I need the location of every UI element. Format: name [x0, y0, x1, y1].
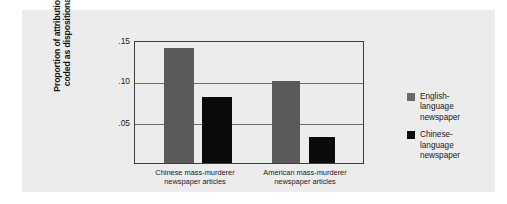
x-axis-label-american-articles-line-1: American mass-murderer: [250, 168, 360, 177]
legend: English- language newspaper Chinese- lan…: [407, 92, 460, 168]
y-tick-label-015: .15: [104, 37, 130, 46]
x-axis-label-chinese-articles-line-2: newspaper articles: [140, 177, 250, 186]
plot-area: [134, 41, 364, 164]
y-tick-label-010: .10: [104, 77, 130, 86]
x-axis-label-chinese-articles: Chinese mass-murderer newspaper articles: [140, 168, 250, 187]
legend-label-english-language-newspaper: English- language newspaper: [420, 92, 460, 123]
x-axis-label-american-articles: American mass-murderer newspaper article…: [250, 168, 360, 187]
y-axis-title-line-1: Proportion of attributions: [52, 0, 63, 92]
figure-panel: Proportion of attributions coded as disp…: [22, 10, 495, 192]
bar-american-articles-english-newspaper: [272, 81, 300, 163]
y-axis-title-line-2: coded as dispositional: [62, 0, 73, 86]
legend-swatch-icon-english: [407, 93, 415, 101]
legend-swatch-icon-chinese: [407, 131, 415, 139]
x-axis-label-american-articles-line-2: newspaper articles: [250, 177, 360, 186]
legend-item-english-language-newspaper: English- language newspaper: [407, 92, 460, 123]
y-axis-title: Proportion of attributions coded as disp…: [45, 0, 79, 105]
y-tick-label-005: .05: [104, 119, 130, 128]
bar-chinese-articles-english-newspaper: [164, 48, 194, 163]
legend-label-chinese-language-newspaper: Chinese- language newspaper: [420, 130, 460, 161]
x-axis-label-chinese-articles-line-1: Chinese mass-murderer: [140, 168, 250, 177]
y-axis-tick-labels: .15 .10 .05: [102, 41, 130, 164]
bar-chinese-articles-chinese-newspaper: [202, 97, 232, 163]
legend-item-chinese-language-newspaper: Chinese- language newspaper: [407, 130, 460, 161]
bar-american-articles-chinese-newspaper: [309, 137, 335, 163]
